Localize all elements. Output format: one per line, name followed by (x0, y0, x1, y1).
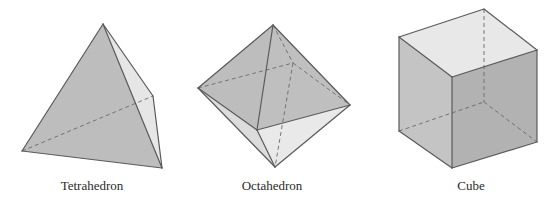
cube-figure (399, 9, 537, 168)
polyhedra-diagram: Tetrahedron Octahedron Cube (0, 0, 551, 198)
octahedron-label: Octahedron (242, 178, 303, 193)
tetrahedron-figure (22, 24, 162, 168)
tetrahedron-label: Tetrahedron (61, 178, 124, 193)
cube-label: Cube (457, 178, 485, 193)
octahedron-figure (198, 25, 350, 167)
